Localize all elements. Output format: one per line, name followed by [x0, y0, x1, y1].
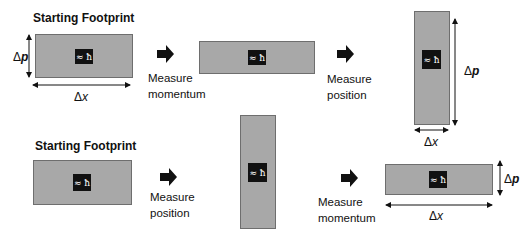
hbar-badge: ≈ ħ [248, 163, 267, 182]
row1-dp-label: Δp [13, 50, 28, 64]
row1-final-dx-label: Δx [424, 135, 438, 149]
row2-action1-label: Measure position [150, 189, 195, 221]
row1-final-dp-label: Δp [464, 64, 479, 78]
action-line1: Measure [148, 70, 206, 86]
action-line2: position [327, 87, 372, 103]
row1-action2-label: Measure position [327, 71, 372, 103]
action-line2: momentum [148, 86, 206, 102]
hbar-badge: ≈ ħ [422, 50, 441, 69]
row2-action2-label: Measure momentum [318, 194, 376, 226]
action-line2: momentum [318, 210, 376, 226]
right-arrow-icon [160, 168, 178, 186]
action-line1: Measure [150, 189, 195, 205]
action-line1: Measure [327, 71, 372, 87]
row2-title: Starting Footprint [35, 139, 136, 153]
hbar-badge: ≈ ħ [73, 174, 91, 191]
right-arrow-icon [341, 169, 359, 187]
row2-final-dp-label: Δp [504, 172, 519, 186]
action-line2: position [150, 205, 195, 221]
row1-action1-label: Measure momentum [148, 70, 206, 102]
row1-dx-label: Δx [74, 90, 88, 104]
hbar-badge: ≈ ħ [75, 49, 93, 64]
hbar-badge: ≈ ħ [248, 50, 266, 65]
hbar-badge: ≈ ħ [429, 171, 447, 188]
row2-final-dx-label: Δx [429, 209, 443, 223]
right-arrow-icon [337, 45, 355, 63]
right-arrow-icon [157, 45, 175, 63]
action-line1: Measure [318, 194, 376, 210]
row1-title: Starting Footprint [33, 11, 134, 25]
dx-arrow-icon [0, 0, 1, 1]
